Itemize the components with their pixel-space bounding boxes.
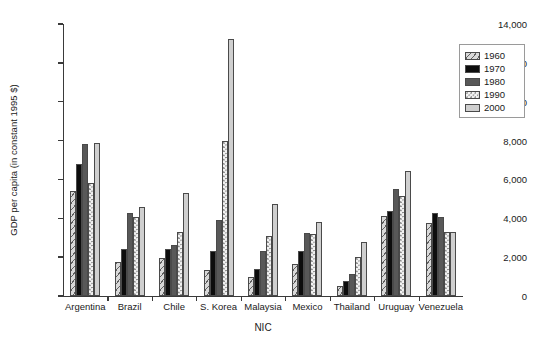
legend-label-1990: 1990 — [484, 90, 505, 100]
plot-area — [63, 24, 463, 296]
category-separator — [285, 296, 286, 301]
y-tick-label: 0 — [522, 291, 527, 302]
bar-brazil-2000 — [139, 207, 145, 296]
bar-argentina-2000 — [94, 143, 100, 296]
category-label-chile: Chile — [152, 301, 196, 312]
category-label-thailand: Thailand — [330, 301, 374, 312]
y-tick-label: 8,000 — [503, 135, 527, 146]
legend-swatch-1990 — [465, 91, 480, 99]
y-tick-label: 14,000 — [498, 19, 527, 30]
category-label-s-korea: S. Korea — [196, 301, 240, 312]
bar-chart: GDP per capita (in constant 1995 $) 02,0… — [0, 0, 534, 343]
legend-swatch-1970 — [465, 65, 480, 73]
legend-item-1960: 1960 — [465, 49, 520, 62]
y-tick-label: 6,000 — [503, 174, 527, 185]
category-label-argentina: Argentina — [63, 301, 107, 312]
legend-item-1990: 1990 — [465, 88, 520, 101]
category-separator — [330, 296, 331, 301]
legend-label-1970: 1970 — [484, 64, 505, 74]
category-separator — [107, 296, 108, 301]
legend-swatch-2000 — [465, 104, 480, 112]
category-separator — [374, 296, 375, 301]
bar-mexico-2000 — [316, 222, 322, 296]
legend-swatch-1980 — [465, 78, 480, 86]
legend-swatch-1960 — [465, 52, 480, 60]
legend-item-2000: 2000 — [465, 101, 520, 114]
bar-venezuela-2000 — [450, 232, 456, 296]
bar-thailand-2000 — [361, 242, 367, 296]
category-label-uruguay: Uruguay — [374, 301, 418, 312]
bar-s-korea-2000 — [228, 39, 234, 296]
y-tick-label: 2,000 — [503, 252, 527, 263]
legend-item-1980: 1980 — [465, 75, 520, 88]
x-axis-title: NIC — [63, 322, 463, 333]
bar-malaysia-2000 — [272, 204, 278, 296]
category-label-mexico: Mexico — [285, 301, 329, 312]
category-separator — [196, 296, 197, 301]
legend: 19601970198019902000 — [459, 44, 525, 118]
legend-label-2000: 2000 — [484, 103, 505, 113]
bar-chile-2000 — [183, 193, 189, 296]
legend-label-1960: 1960 — [484, 51, 505, 61]
category-label-malaysia: Malaysia — [241, 301, 285, 312]
category-label-brazil: Brazil — [107, 301, 151, 312]
bar-uruguay-2000 — [405, 171, 411, 296]
legend-label-1980: 1980 — [484, 77, 505, 87]
category-separator — [419, 296, 420, 301]
legend-item-1970: 1970 — [465, 62, 520, 75]
category-label-venezuela: Venezuela — [419, 301, 463, 312]
y-axis-title: GDP per capita (in constant 1995 $) — [8, 24, 19, 296]
y-tick-label: 4,000 — [503, 213, 527, 224]
category-separator — [152, 296, 153, 301]
category-separator — [241, 296, 242, 301]
